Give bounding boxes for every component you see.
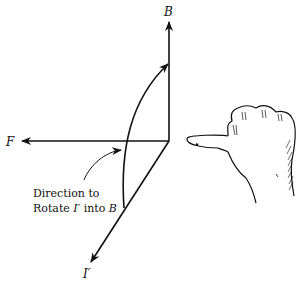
- annotation-line-2: Rotate I′ into B: [33, 202, 117, 215]
- annotation-line-1: Direction to: [33, 187, 100, 200]
- diagram-canvas: B F I′ Direction to Rotate I′ into B: [0, 0, 304, 288]
- label-i-prime: I′: [82, 267, 91, 281]
- rotation-arc-arrow: [123, 64, 168, 208]
- right-hand-icon: [187, 106, 295, 203]
- label-f: F: [5, 135, 15, 149]
- annotation-pointer-arrow: [84, 150, 121, 180]
- label-b: B: [163, 5, 173, 19]
- right-hand-rule-diagram: B F I′ Direction to Rotate I′ into B: [0, 0, 304, 288]
